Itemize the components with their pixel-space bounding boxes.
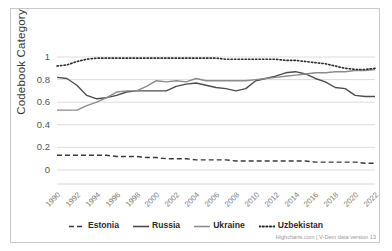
legend-key-icon (259, 222, 275, 229)
chart-legend: EstoniaRussiaUkraineUzbekistan (0, 219, 392, 230)
legend-item-estonia[interactable]: Estonia (69, 219, 119, 230)
chart-canvas (0, 0, 392, 251)
series-line-ukraine (57, 69, 375, 110)
series-line-uzbekistan (57, 58, 375, 69)
plot-container: Codebook Category 10.80.60.40.20 1990199… (0, 0, 392, 251)
chart-credit: Highcharts.com | V-Dem data version 13 (276, 234, 376, 240)
legend-key-icon (194, 222, 210, 229)
legend-item-russia[interactable]: Russia (133, 219, 180, 230)
series-line-russia (57, 72, 375, 99)
legend-label: Estonia (88, 220, 119, 230)
legend-label: Uzbekistan (278, 220, 323, 230)
legend-item-uzbekistan[interactable]: Uzbekistan (259, 219, 323, 230)
legend-label: Russia (152, 220, 180, 230)
legend-item-ukraine[interactable]: Ukraine (194, 219, 245, 230)
legend-label: Ukraine (213, 220, 245, 230)
series-line-estonia (57, 155, 375, 163)
chart-screenshot: Codebook Category 10.80.60.40.20 1990199… (0, 0, 392, 251)
gridlines (57, 57, 375, 184)
legend-key-icon (133, 222, 149, 229)
legend-key-icon (69, 222, 85, 229)
